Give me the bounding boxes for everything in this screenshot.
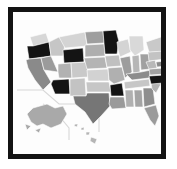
us-choropleth-map[interactable]: Washington Oregon California Nevada Idah… [13, 12, 161, 154]
state-NE[interactable]: Nebraska [84, 57, 107, 69]
state-MD[interactable]: Maryland [156, 61, 161, 67]
state-polygons[interactable]: Washington Oregon California Nevada Idah… [25, 22, 161, 144]
state-NY[interactable]: New York [146, 37, 161, 52]
state-SD[interactable]: South Dakota [85, 44, 105, 57]
state-HI[interactable]: Hawaii [74, 124, 97, 144]
state-AR[interactable]: Arkansas [110, 83, 124, 96]
state-MN[interactable]: Minnesota [103, 30, 119, 54]
state-TX[interactable]: Texas [73, 93, 110, 124]
state-FL[interactable]: Florida [144, 105, 159, 126]
state-MS[interactable]: Mississippi [125, 90, 134, 107]
state-MO[interactable]: Missouri [108, 67, 125, 84]
state-LA[interactable]: Louisiana [109, 97, 126, 109]
map-thumbnail-app: United States Choropleth Map Washington … [0, 0, 177, 169]
state-WY[interactable]: Wyoming [63, 48, 84, 63]
state-AK[interactable]: Alaska [25, 104, 67, 133]
picture-frame: Washington Oregon California Nevada Idah… [8, 7, 166, 159]
state-NC[interactable]: North Carolina [149, 75, 161, 84]
state-AZ[interactable]: Arizona [51, 79, 70, 94]
state-GA[interactable]: Georgia [143, 88, 155, 107]
state-KS[interactable]: Kansas [87, 69, 109, 81]
state-WI[interactable]: Wisconsin [117, 39, 131, 57]
state-UT[interactable]: Utah [58, 63, 72, 78]
state-ND[interactable]: North Dakota [85, 31, 104, 44]
page-title: United States Choropleth Map [0, 21, 1, 22]
state-TN[interactable]: Tennessee [124, 79, 150, 89]
state-IA[interactable]: Iowa [105, 55, 121, 67]
state-NM[interactable]: New Mexico [70, 78, 86, 96]
state-IN[interactable]: Indiana [132, 55, 140, 73]
state-AL[interactable]: Alabama [134, 90, 143, 107]
state-MI[interactable]: Michigan [129, 36, 144, 56]
frame-inner-matte: Washington Oregon California Nevada Idah… [13, 12, 161, 154]
state-OK[interactable]: Oklahoma [86, 82, 111, 92]
